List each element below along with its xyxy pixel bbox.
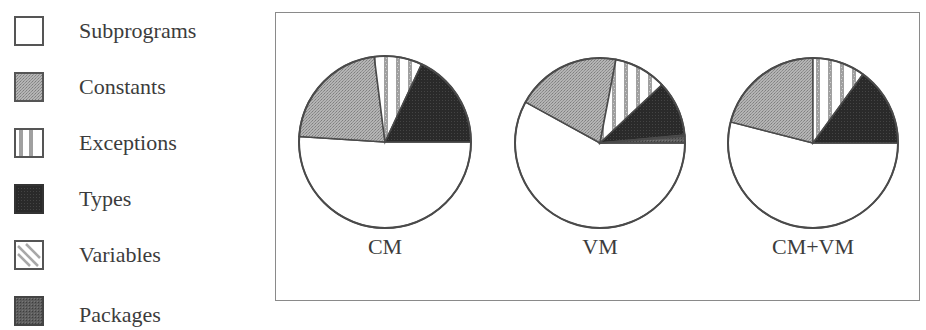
pie-slice-constants [299,57,385,142]
pie-label-vm: VM [530,235,670,259]
pie-slice-subprograms [299,137,471,228]
pie-charts [0,0,926,330]
pie-vm [515,58,685,228]
pie-cm [299,56,471,228]
pie-cm-vm [728,58,898,228]
pie-label-cm: CM [315,235,455,259]
pie-label-cm-vm: CM+VM [743,235,883,259]
